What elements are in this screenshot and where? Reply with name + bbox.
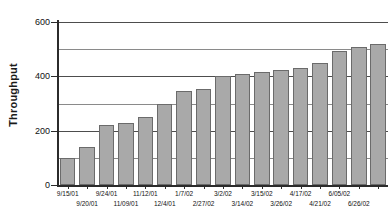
bar-slot: [194, 22, 213, 185]
x-axis-tick-label: 1/7/02: [175, 190, 193, 197]
x-axis-tick-label: 11/09/01: [114, 200, 139, 207]
y-axis-tick-label: 600: [4, 17, 50, 27]
x-axis-tick-label: 4/21/02: [309, 200, 331, 207]
x-label-slot: 3/2/02: [213, 190, 232, 218]
x-axis-tick-label: 2/27/02: [193, 200, 215, 207]
bar-slot: [136, 22, 155, 185]
bar[interactable]: [215, 76, 231, 185]
bar-slot: [58, 22, 77, 185]
bar-slot: [213, 22, 232, 185]
bar-slot: [116, 22, 135, 185]
bar[interactable]: [176, 91, 192, 185]
x-tick-slot: [330, 185, 349, 189]
x-axis-tick-label: 12/4/01: [154, 200, 176, 207]
bar[interactable]: [273, 70, 289, 185]
x-axis-tick: [68, 185, 69, 189]
bar[interactable]: [332, 51, 348, 185]
x-axis-tick-label: 9/15/01: [57, 190, 79, 197]
x-label-slot: 2/27/02: [194, 190, 213, 218]
bar-chart: Throughput 0200400600 9/15/019/20/019/24…: [0, 0, 392, 223]
bar-slot: [310, 22, 329, 185]
x-label-slot: 4/21/02: [310, 190, 329, 218]
bar[interactable]: [351, 47, 367, 185]
x-label-slot: 3/15/02: [252, 190, 271, 218]
x-axis-tick: [281, 185, 282, 189]
x-axis-tick-label: 3/15/02: [251, 190, 273, 197]
bar[interactable]: [196, 89, 212, 185]
bar[interactable]: [293, 68, 309, 185]
x-tick-slot: [155, 185, 174, 189]
x-tick-slot: [233, 185, 252, 189]
x-tick-slot: [136, 185, 155, 189]
x-tick-slot: [116, 185, 135, 189]
x-axis-tick-label: 9/24/01: [96, 190, 118, 197]
x-label-slot: 12/4/01: [155, 190, 174, 218]
x-label-slot: 9/15/01: [58, 190, 77, 218]
x-tick-slot: [349, 185, 368, 189]
x-tick-slot: [369, 185, 388, 189]
y-axis-tick: [51, 131, 58, 132]
bar-slot: [155, 22, 174, 185]
bar[interactable]: [370, 44, 386, 185]
bar[interactable]: [99, 125, 115, 185]
bar[interactable]: [60, 158, 76, 185]
x-axis-tick-label: 3/26/02: [270, 200, 292, 207]
x-label-slot: 1/7/02: [174, 190, 193, 218]
bar-series: [58, 22, 388, 185]
x-label-slot: 6/05/02: [330, 190, 349, 218]
x-tick-slot: [213, 185, 232, 189]
bar-slot: [271, 22, 290, 185]
bar[interactable]: [312, 63, 328, 185]
x-axis-tick-label: 11/12/01: [133, 190, 158, 197]
bar-slot: [174, 22, 193, 185]
y-axis-tick: [51, 76, 58, 77]
x-tick-slot: [174, 185, 193, 189]
bar-slot: [97, 22, 116, 185]
x-tick-slot: [291, 185, 310, 189]
x-axis-tick: [339, 185, 340, 189]
x-axis-tick-label: 6/26/02: [348, 200, 370, 207]
x-label-slot: 11/12/01: [136, 190, 155, 218]
x-label-slot: 4/17/02: [291, 190, 310, 218]
y-axis-labels: 0200400600: [0, 0, 50, 223]
bar[interactable]: [138, 117, 154, 185]
x-axis-tick-label: 9/20/01: [76, 200, 98, 207]
x-tick-slot: [97, 185, 116, 189]
x-tick-slot: [194, 185, 213, 189]
x-axis-tick: [165, 185, 166, 189]
x-axis-tick: [378, 185, 379, 189]
x-axis-labels: 9/15/019/20/019/24/0111/09/0111/12/0112/…: [58, 190, 388, 218]
x-tick-slot: [58, 185, 77, 189]
bar[interactable]: [254, 72, 270, 185]
y-axis-tick-label: 0: [4, 180, 50, 190]
x-tick-slot: [77, 185, 96, 189]
y-axis-tick: [51, 22, 58, 23]
x-label-slot: 9/20/01: [77, 190, 96, 218]
x-axis-tick: [359, 185, 360, 189]
bar-slot: [291, 22, 310, 185]
x-axis-tick: [320, 185, 321, 189]
x-axis-tick-label: 3/2/02: [214, 190, 232, 197]
x-axis-tick: [223, 185, 224, 189]
x-axis-tick: [204, 185, 205, 189]
x-axis-tick-label: 4/17/02: [290, 190, 312, 197]
bar-slot: [77, 22, 96, 185]
x-tick-slot: [271, 185, 290, 189]
bar[interactable]: [79, 147, 95, 185]
bar[interactable]: [157, 104, 173, 186]
x-tick-slot: [252, 185, 271, 189]
x-axis-tick-label: 3/14/02: [232, 200, 254, 207]
x-axis-tick: [87, 185, 88, 189]
x-axis-tick-label: 6/05/02: [329, 190, 351, 197]
y-axis-tick: [51, 185, 58, 186]
x-axis-ticks: [58, 185, 388, 189]
bar-slot: [330, 22, 349, 185]
bar[interactable]: [118, 123, 134, 185]
x-label-slot: 3/26/02: [271, 190, 290, 218]
x-axis-tick: [107, 185, 108, 189]
x-axis-tick: [184, 185, 185, 189]
bar-slot: [369, 22, 388, 185]
x-tick-slot: [310, 185, 329, 189]
x-label-slot: [369, 190, 388, 218]
bar[interactable]: [235, 74, 251, 185]
